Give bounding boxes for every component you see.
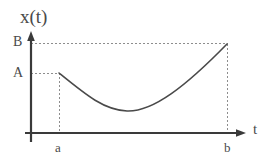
y-axis-arrowhead [27,31,35,41]
function-plot-figure: x(t) B A a b t [0,0,271,161]
function-curve [59,44,227,111]
y-tick-label-b: B [13,35,22,49]
y-tick-label-a: A [13,66,23,80]
x-axis-title: t [253,122,257,137]
x-axis-arrowhead [236,129,246,137]
y-axis-title: x(t) [20,7,47,26]
x-tick-label-a: a [55,141,61,154]
x-tick-label-b: b [224,141,231,154]
